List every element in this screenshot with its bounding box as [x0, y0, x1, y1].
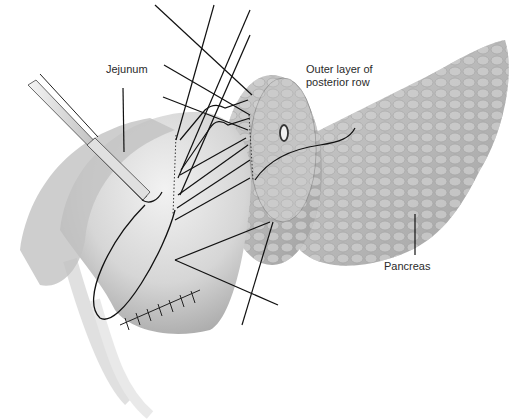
jejunum — [20, 112, 251, 334]
anastomosis-illustration — [0, 0, 520, 420]
label-jejunum: Jejunum — [106, 63, 148, 76]
label-outer-layer-posterior-row: Outer layer of posterior row — [306, 63, 386, 89]
label-pancreas: Pancreas — [384, 260, 430, 273]
pancreatic-duct — [280, 125, 288, 141]
